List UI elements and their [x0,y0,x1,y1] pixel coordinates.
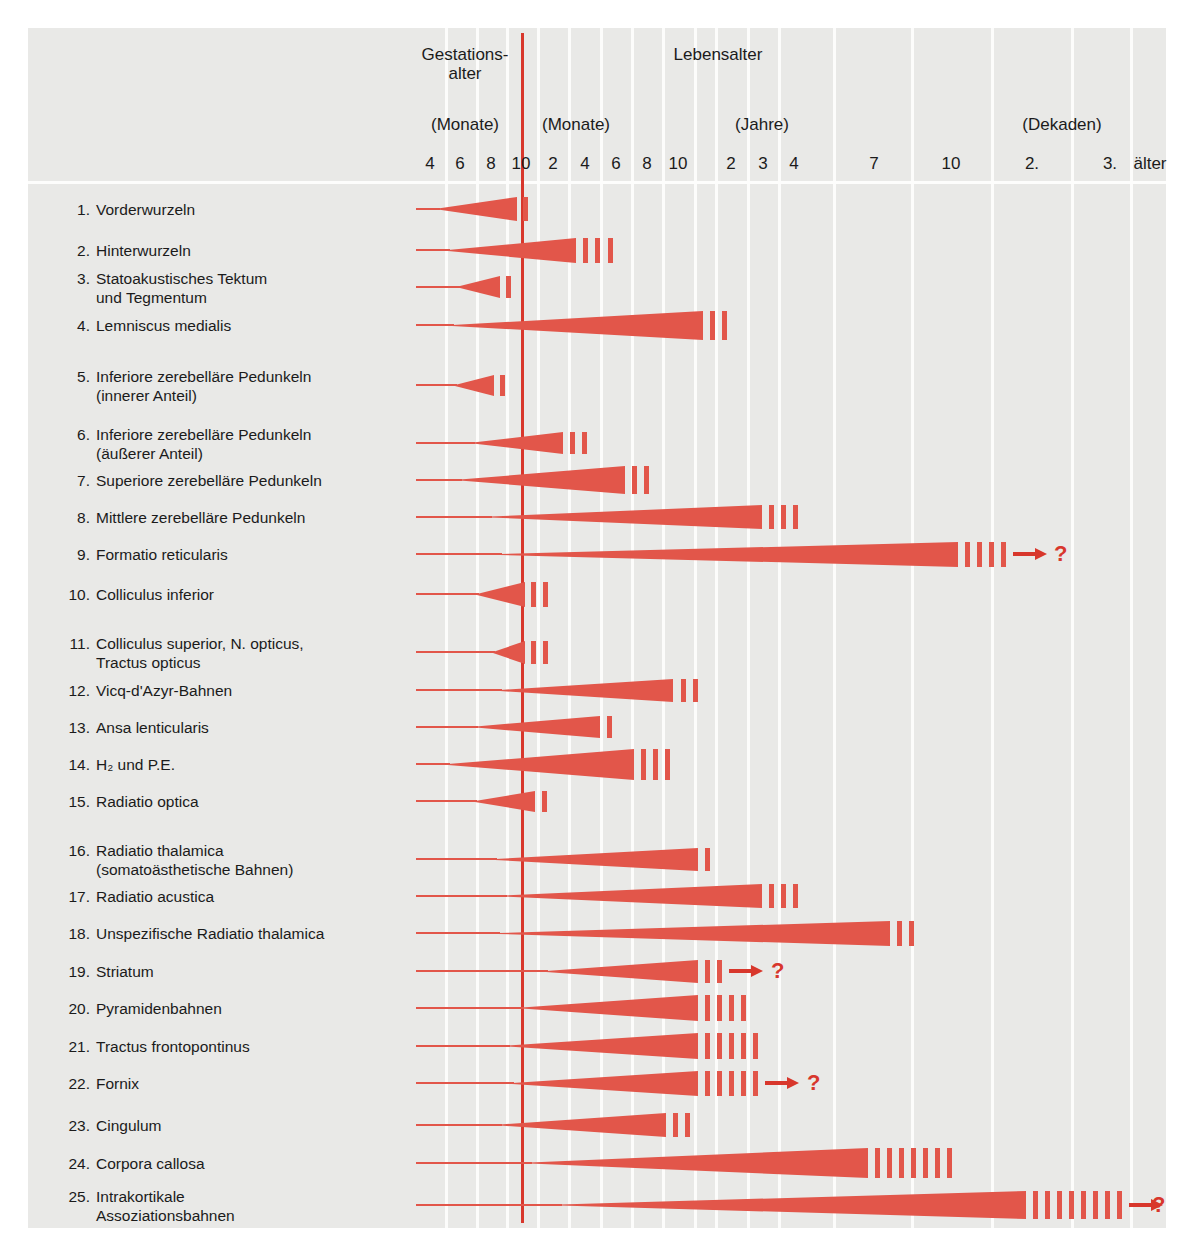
bar-track-13 [416,726,478,728]
row-title-10: Colliculus inferior [90,585,214,604]
bar-tickmark-4-2 [722,311,727,340]
bar-track-23 [416,1124,502,1126]
row-number-21: 21. [64,1037,90,1056]
gridline-14 [991,28,994,1228]
bar-tickmark-20-1 [705,995,710,1021]
axis-tick-0: 4 [425,155,434,173]
bar-wedge-11 [493,640,525,665]
bar-tickmark-9-1 [965,542,970,567]
bar-track-9 [416,553,502,555]
row-title-22: Fornix [90,1074,139,1093]
row-title-9: Formatio reticularis [90,545,228,564]
row-label-14: 14.H₂ und P.E. [64,755,175,774]
row-number-15: 15. [64,792,90,811]
row-number-19: 19. [64,962,90,981]
bar-tickmark-11-2 [543,641,548,664]
bar-wedge-1 [438,196,517,222]
bar-tickmark-24-4 [911,1148,916,1178]
bar-wedge-5 [455,374,494,397]
bar-arrow-9 [1013,546,1047,562]
bar-tickmark-25-5 [1081,1191,1086,1219]
bar-tickmark-24-7 [947,1148,952,1178]
row-label-8: 8.Mittlere zerebelläre Pedunkeln [64,508,305,527]
row-title-19: Striatum [90,962,154,981]
row-label-25: 25.IntrakortikaleAssoziationsbahnen [64,1187,235,1225]
axis-tick-11: 4 [789,155,798,173]
bar-tickmark-16-1 [705,848,710,871]
row-title-18: Unspezifische Radiatio thalamica [90,924,324,943]
gridline-13 [911,28,914,1228]
row-label-12: 12.Vicq-d'Azyr-Bahnen [64,681,232,700]
bar-tickmark-14-1 [641,749,646,780]
row-number-1: 1. [64,200,90,219]
bar-wedge-24 [530,1147,868,1179]
axis-tick-6: 6 [611,155,620,173]
bar-track-20 [416,1007,524,1009]
bar-wedge-20 [522,994,698,1022]
row-number-7: 7. [64,471,90,490]
bar-track-24 [416,1162,532,1164]
bar-tickmark-20-3 [729,995,734,1021]
bar-tickmark-2-3 [608,238,613,263]
bar-wedge-18 [498,920,890,947]
bar-tickmark-21-3 [729,1033,734,1059]
row-number-9: 9. [64,545,90,564]
row-number-10: 10. [64,585,90,604]
row-title-2: Hinterwurzeln [90,241,191,260]
bar-tickmark-2-2 [595,238,600,263]
bar-tickmark-22-1 [705,1071,710,1096]
bar-track-22 [416,1082,514,1084]
axis-tick-13: 10 [942,155,961,173]
bar-wedge-19 [546,959,698,984]
row-title-cont-16: (somatoästhetische Bahnen) [64,860,293,879]
axis-tick-12: 7 [869,155,878,173]
row-title-20: Pyramidenbahnen [90,999,222,1018]
bar-question-mark-19: ? [771,960,784,982]
row-title-25: Intrakortikale [90,1187,185,1206]
axis-rule [28,181,1166,184]
bar-track-4 [416,324,454,326]
bar-arrow-19 [729,963,763,979]
row-title-21: Tractus frontopontinus [90,1037,250,1056]
row-title-cont-3: und Tegmentum [64,288,207,307]
row-number-23: 23. [64,1116,90,1135]
bar-tickmark-8-2 [781,505,786,529]
bar-track-14 [416,763,450,765]
bar-wedge-15 [475,790,535,813]
bar-tickmark-9-3 [989,542,994,567]
axis-tick-5: 4 [580,155,589,173]
row-title-24: Corpora callosa [90,1154,205,1173]
bar-tickmark-20-2 [717,995,722,1021]
bar-tickmark-8-3 [793,505,798,529]
bar-tickmark-25-7 [1105,1191,1110,1219]
bar-question-mark-25: ? [1152,1194,1165,1216]
header-gestational-age-line1: Gestations- [422,45,509,64]
bar-arrow-22 [765,1075,799,1091]
bar-track-17 [416,895,507,897]
row-label-23: 23.Cingulum [64,1116,161,1135]
row-number-3: 3. [64,269,90,288]
row-number-17: 17. [64,887,90,906]
bar-wedge-6 [473,431,563,455]
row-title-3: Statoakustisches Tektum [90,269,267,288]
bar-tickmark-2-1 [583,238,588,263]
bar-track-5 [416,384,457,386]
bar-tickmark-21-1 [705,1033,710,1059]
row-number-13: 13. [64,718,90,737]
bar-tickmark-24-3 [899,1148,904,1178]
row-number-12: 12. [64,681,90,700]
bar-track-15 [416,800,477,802]
chart-plate: Gestations- alter Lebensalter (Monate) (… [28,28,1166,1228]
bar-wedge-9 [500,541,958,568]
bar-track-1 [416,208,440,210]
bar-wedge-12 [500,678,673,703]
row-label-9: 9.Formatio reticularis [64,545,228,564]
row-title-13: Ansa lenticularis [90,718,209,737]
bar-tickmark-21-4 [741,1033,746,1059]
gridline-16 [1130,28,1133,1228]
row-title-cont-11: Tractus opticus [64,653,201,672]
row-title-cont-6: (äußerer Anteil) [64,444,203,463]
bar-wedge-7 [460,465,625,495]
bar-question-mark-9: ? [1054,543,1067,565]
bar-wedge-22 [512,1070,698,1097]
